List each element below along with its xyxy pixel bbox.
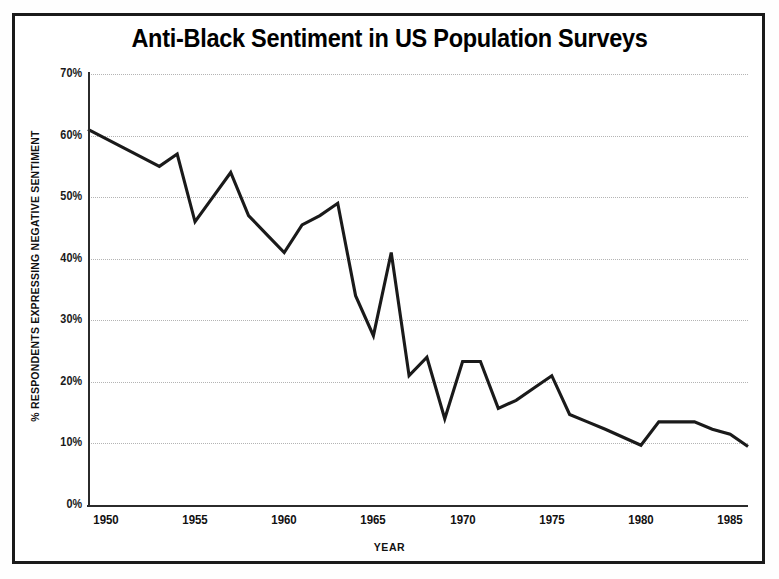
x-axis-label: YEAR <box>0 541 779 553</box>
y-axis-label: % RESPONDENTS EXPRESSING NEGATIVE SENTIM… <box>29 26 41 526</box>
series-polyline <box>88 129 748 446</box>
x-tick-label-1970: 1970 <box>436 512 489 527</box>
data-line-series <box>88 74 748 505</box>
y-tick-label-0%: 0% <box>41 497 82 511</box>
y-tick-label-50%: 50% <box>41 189 82 203</box>
chart-figure: Anti-Black Sentiment in US Population Su… <box>0 0 779 579</box>
y-tick-label-30%: 30% <box>41 312 82 326</box>
x-tick-label-1985: 1985 <box>704 512 757 527</box>
y-tick-label-60%: 60% <box>41 128 82 142</box>
y-tick-label-10%: 10% <box>41 435 82 449</box>
y-axis-line <box>88 72 90 507</box>
x-tick-label-1975: 1975 <box>525 512 578 527</box>
x-tick-label-1980: 1980 <box>615 512 668 527</box>
y-tick-label-70%: 70% <box>41 66 82 80</box>
x-tick-label-1960: 1960 <box>258 512 311 527</box>
chart-title: Anti-Black Sentiment in US Population Su… <box>23 24 755 53</box>
y-tick-label-40%: 40% <box>41 251 82 265</box>
plot-area <box>88 74 748 505</box>
x-tick-label-1955: 1955 <box>169 512 222 527</box>
x-tick-label-1950: 1950 <box>79 512 132 527</box>
x-tick-label-1965: 1965 <box>347 512 400 527</box>
y-tick-label-20%: 20% <box>41 374 82 388</box>
x-axis-line <box>87 505 748 507</box>
